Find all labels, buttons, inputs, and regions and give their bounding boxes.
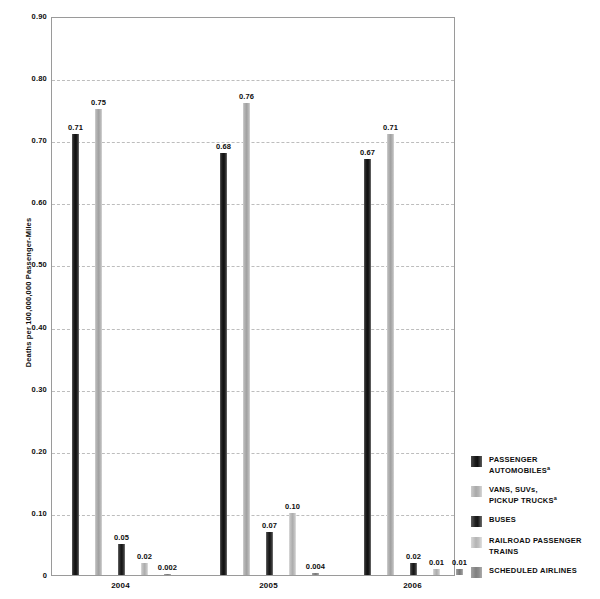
legend-label: PASSENGERAUTOMOBILESa bbox=[489, 455, 550, 476]
bar bbox=[456, 569, 463, 575]
y-tick-label: 0.20 bbox=[7, 447, 47, 456]
bar-value-label: 0.76 bbox=[234, 92, 259, 101]
legend-item: PASSENGERAUTOMOBILESa bbox=[471, 455, 599, 476]
legend-label: RAILROAD PASSENGERTRAINS bbox=[489, 536, 582, 557]
y-tick-label: 0 bbox=[7, 571, 47, 580]
y-tick-label: 0.40 bbox=[7, 323, 47, 332]
legend-swatch-icon bbox=[471, 537, 482, 548]
bar-value-label: 0.71 bbox=[63, 123, 88, 132]
legend-item: VANS, SUVs,PICKUP TRUCKSa bbox=[471, 485, 599, 506]
legend-swatch-icon bbox=[471, 567, 482, 578]
legend-swatch-icon bbox=[471, 456, 482, 467]
x-tick-label-2006: 2006 bbox=[383, 581, 443, 590]
bar bbox=[72, 134, 79, 575]
bar-value-label: 0.02 bbox=[401, 552, 426, 561]
bar bbox=[220, 153, 227, 575]
y-tick-label: 0.60 bbox=[7, 198, 47, 207]
legend-item: RAILROAD PASSENGERTRAINS bbox=[471, 536, 599, 557]
y-tick-label: 0.80 bbox=[7, 74, 47, 83]
bar-value-label: 0.75 bbox=[86, 98, 111, 107]
chart-figure: Deaths per 100,000,000 Passenger-Miles 0… bbox=[0, 0, 600, 599]
legend-label: BUSES bbox=[489, 515, 516, 526]
bar bbox=[243, 103, 250, 575]
bar bbox=[364, 159, 371, 575]
y-tick-label: 0.90 bbox=[7, 12, 47, 21]
bar bbox=[95, 109, 102, 575]
plot-area: 0.710.750.050.020.0020.680.760.070.100.0… bbox=[51, 17, 455, 576]
bar-value-label: 0.004 bbox=[303, 562, 328, 571]
x-tick-label-2005: 2005 bbox=[239, 581, 299, 590]
bar bbox=[433, 569, 440, 575]
bar bbox=[312, 573, 319, 575]
bar-value-label: 0.71 bbox=[378, 123, 403, 132]
bar-value-label: 0.67 bbox=[355, 148, 380, 157]
bar bbox=[266, 532, 273, 575]
bar bbox=[141, 563, 148, 575]
bar bbox=[387, 134, 394, 575]
bar bbox=[118, 544, 125, 575]
y-tick-label: 0.30 bbox=[7, 385, 47, 394]
x-tick-label-2004: 2004 bbox=[91, 581, 151, 590]
chart-legend: PASSENGERAUTOMOBILESaVANS, SUVs,PICKUP T… bbox=[471, 455, 599, 587]
bar bbox=[410, 563, 417, 575]
legend-swatch-icon bbox=[471, 516, 482, 527]
legend-swatch-icon bbox=[471, 486, 482, 497]
bar-value-label: 0.05 bbox=[109, 533, 134, 542]
legend-item: BUSES bbox=[471, 515, 599, 527]
bar-value-label: 0.01 bbox=[447, 558, 472, 567]
bar-value-label: 0.02 bbox=[132, 552, 157, 561]
bar-value-label: 0.68 bbox=[211, 142, 236, 151]
bar bbox=[164, 574, 171, 575]
gridline bbox=[52, 80, 454, 81]
bar-value-label: 0.10 bbox=[280, 502, 305, 511]
legend-item: SCHEDULED AIRLINES bbox=[471, 566, 599, 578]
y-tick-label: 0.50 bbox=[7, 260, 47, 269]
bar-value-label: 0.01 bbox=[424, 558, 449, 567]
bar-value-label: 0.07 bbox=[257, 521, 282, 530]
bar-value-label: 0.002 bbox=[155, 563, 180, 572]
y-axis-title: Deaths per 100,000,000 Passenger-Miles bbox=[24, 203, 33, 383]
y-tick-label: 0.70 bbox=[7, 136, 47, 145]
legend-label: SCHEDULED AIRLINES bbox=[489, 566, 577, 577]
y-tick-label: 0.10 bbox=[7, 509, 47, 518]
bar bbox=[289, 513, 296, 575]
legend-label: VANS, SUVs,PICKUP TRUCKSa bbox=[489, 485, 557, 506]
